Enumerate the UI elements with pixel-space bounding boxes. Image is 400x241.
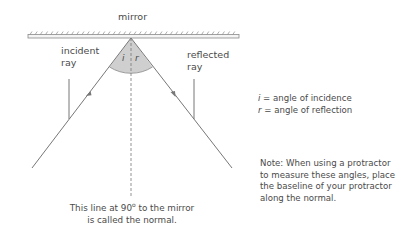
protractor-note: Note: When using a protractor to measure… [260,158,400,204]
incident-ray-label: incident ray [61,45,99,69]
incident-label-line2: ray [61,57,99,69]
mirror-hatching [30,32,235,35]
angle-i-label: i [122,52,125,64]
mirror [28,32,239,39]
reflection-diagram [0,0,400,241]
reflected-label-line1: reflected [187,49,229,61]
reflected-ray-label: reflected ray [187,49,229,73]
angle-r-label: r [135,52,139,64]
key-incidence: i = angle of incidence [258,93,352,105]
mirror-label: mirror [118,11,147,23]
reflected-label-line2: ray [187,61,229,73]
angle-key: i = angle of incidence r = angle of refl… [258,93,352,116]
incident-label-line1: incident [61,45,99,57]
normal-caption-line1: This line at 90o to the mirror [66,202,198,214]
key-reflection: r = angle of reflection [258,105,352,117]
normal-caption: This line at 90o to the mirror is called… [66,202,198,226]
reflected-arrow-icon [171,91,176,97]
normal-caption-line2: is called the normal. [66,214,198,226]
